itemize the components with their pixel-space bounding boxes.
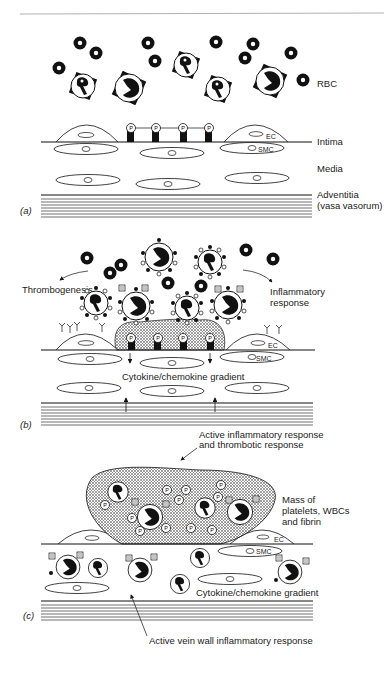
label-inflammatory: Inflammatory: [270, 286, 325, 297]
leukocytes: [69, 51, 287, 105]
label-ec-c: EC: [274, 536, 284, 543]
panel-label-b: (b): [20, 419, 32, 430]
label-media: Media: [317, 163, 344, 174]
label-ec-b: EC: [268, 342, 278, 349]
label-smc-b: SMC: [256, 355, 272, 362]
label-thrombogenesis: Thrombogenesis: [22, 284, 93, 295]
label-mass-2: platelets, WBCs: [282, 505, 350, 516]
panel-label-a: (a): [20, 205, 32, 216]
adventitia-lines-b: [41, 403, 313, 425]
label-response: response: [270, 297, 309, 308]
platelets-a: [127, 124, 214, 143]
panel-label-c: (c): [23, 610, 34, 621]
label-vein-wall: Active vein wall inflammatory response: [149, 635, 313, 646]
label-gradient-c: Cytokine/chemokine gradient: [196, 587, 319, 598]
adventitia-lines-c: [41, 601, 313, 620]
label-rbc: RBC: [317, 78, 337, 89]
panel-b: Thrombogenesis Inflammatory response EC: [20, 238, 325, 430]
label-adventitia: Adventitia: [317, 189, 359, 200]
label-smc-c: SMC: [256, 548, 272, 555]
label-vasa-vasorum: (vasa vasorum): [317, 200, 382, 211]
label-mass-3: and fibrin: [282, 516, 321, 527]
label-mass-1: Mass of: [282, 494, 316, 505]
label-ec-a: EC: [266, 133, 276, 140]
label-intima: Intima: [317, 136, 344, 147]
panel-a: RBC EC Intima SMC Media: [20, 36, 382, 218]
vein-thrombosis-diagram: P RBC EC: [0, 0, 384, 676]
adventitia-lines-a: [41, 195, 312, 217]
top-rule: [20, 13, 384, 14]
label-smc-a: SMC: [258, 146, 274, 153]
label-thrombotic: and thrombotic response: [199, 439, 304, 450]
panel-c: Active inflammatory response and thrombo…: [23, 429, 350, 646]
label-gradient-b: Cytokine/chemokine gradient: [122, 371, 245, 382]
